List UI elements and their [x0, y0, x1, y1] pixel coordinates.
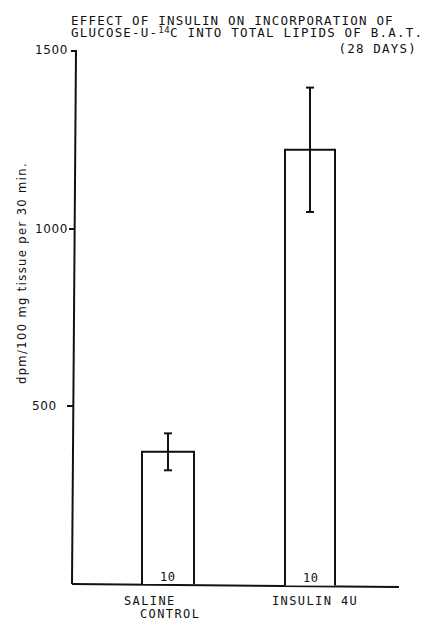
bar-n-label-saline: 10 [160, 571, 176, 583]
bar-n-label-insulin: 10 [303, 572, 319, 584]
bar-saline-control [142, 452, 194, 584]
bar-insulin-4u [285, 150, 335, 586]
bar-group [142, 88, 335, 586]
plot-area [0, 0, 426, 629]
x-category-label-insulin: INSULIN 4U [272, 595, 358, 607]
x-category-label-saline-line-1: SALINE [124, 595, 176, 607]
x-axis-line [72, 584, 399, 587]
x-category-label-saline-line-2: CONTROL [140, 608, 200, 620]
y-axis-line [72, 50, 76, 584]
